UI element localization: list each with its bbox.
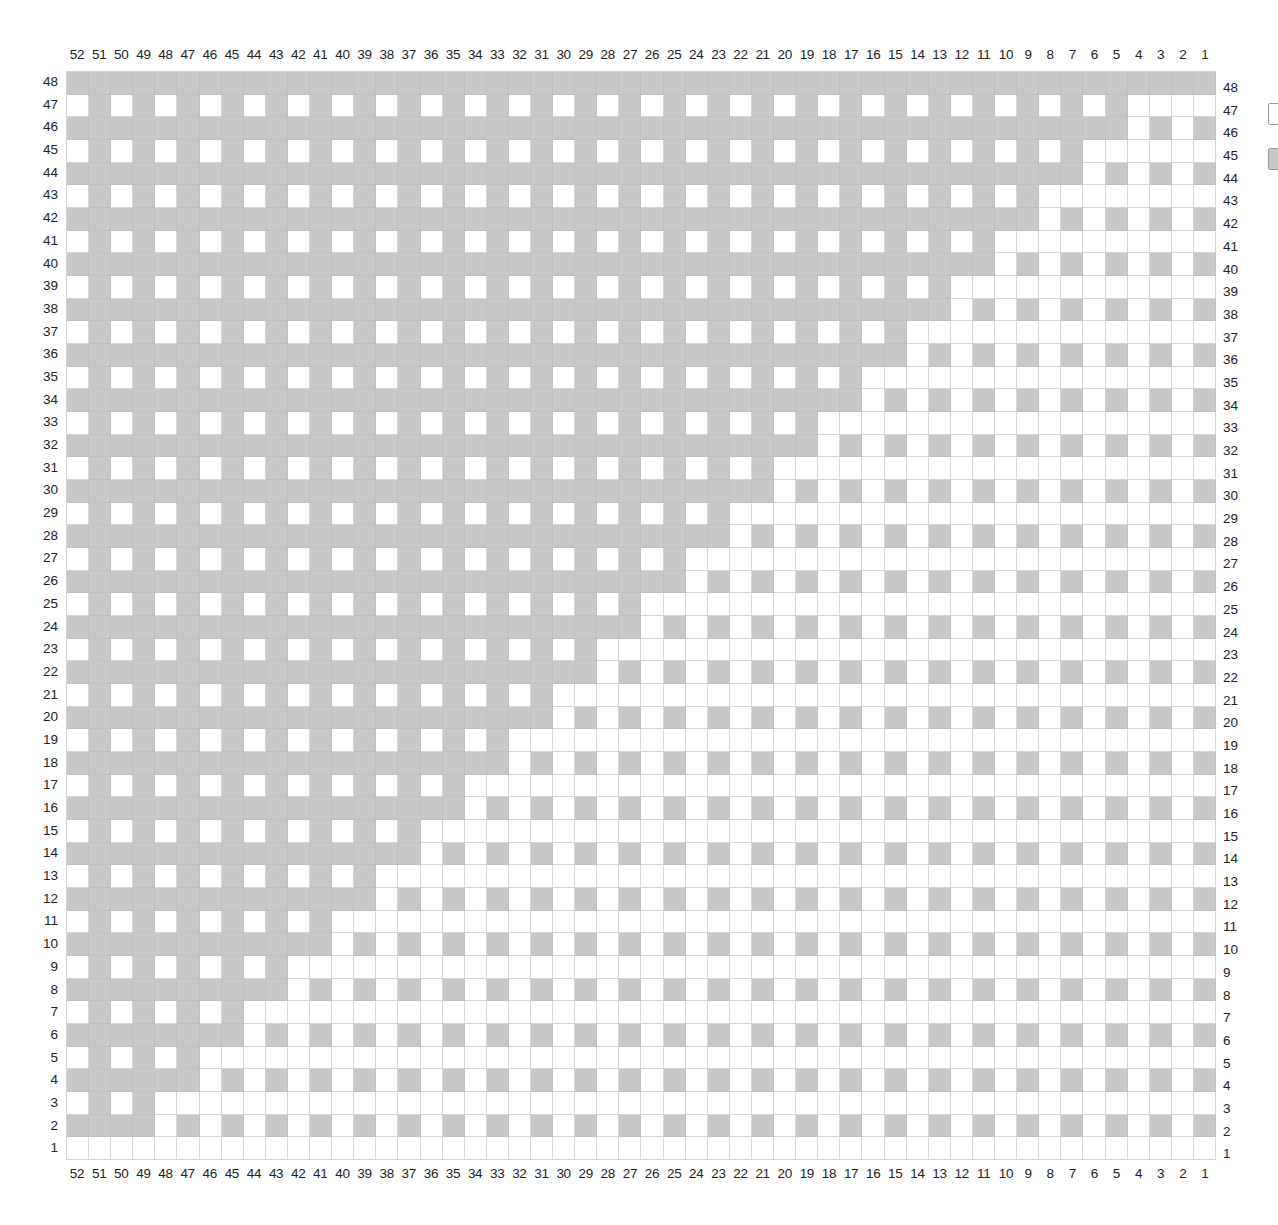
column-label: 19 [796,1165,818,1183]
stitch-cell [509,1069,531,1092]
stitch-cell [907,276,929,299]
stitch-cell [244,321,266,344]
column-label: 43 [265,1165,287,1183]
stitch-cell [973,480,995,503]
stitch-cell [553,979,575,1002]
stitch-cell [465,185,487,208]
stitch-cell [1106,503,1128,526]
stitch-cell [907,979,929,1002]
stitch-cell [1128,389,1150,412]
stitch-cell [752,911,774,934]
stitch-cell [155,1024,177,1047]
stitch-cell [244,707,266,730]
stitch-cell [487,1024,509,1047]
stitch-cell [752,276,774,299]
stitch-cell [1194,208,1216,231]
stitch-cell [89,865,111,888]
stitch-cell [774,684,796,707]
stitch-cell [354,1069,376,1092]
stitch-cell [575,253,597,276]
stitch-cell [200,457,222,480]
stitch-cell [443,1137,465,1160]
stitch-cell [111,117,133,140]
stitch-cell [686,797,708,820]
stitch-cell [398,571,420,594]
stitch-cell [310,865,332,888]
stitch-cell [1061,412,1083,435]
stitch-cell [730,253,752,276]
stitch-cell [421,865,443,888]
stitch-cell [664,140,686,163]
stitch-cell [222,775,244,798]
stitch-cell [443,276,465,299]
stitch-cell [951,752,973,775]
stitch-cell [310,367,332,390]
stitch-cell [575,412,597,435]
stitch-cell [1172,253,1194,276]
stitch-cell [354,367,376,390]
stitch-cell [619,707,641,730]
stitch-cell [1172,729,1194,752]
stitch-cell [177,185,199,208]
stitch-cell [840,412,862,435]
stitch-cell [1083,775,1105,798]
stitch-cell [1083,457,1105,480]
stitch-cell [995,820,1017,843]
stitch-cell [553,367,575,390]
stitch-cell [619,797,641,820]
stitch-cell [465,457,487,480]
stitch-cell [1083,571,1105,594]
row-label: 33 [28,411,62,434]
stitch-cell [310,548,332,571]
column-label: 47 [177,1165,199,1183]
stitch-cell [995,593,1017,616]
stitch-cell [398,865,420,888]
stitch-cell [840,797,862,820]
stitch-cell [730,911,752,934]
stitch-cell [862,503,884,526]
stitch-cell [929,979,951,1002]
stitch-cell [421,163,443,186]
stitch-cell [111,1024,133,1047]
stitch-cell [1128,661,1150,684]
stitch-cell [664,208,686,231]
stitch-cell [465,140,487,163]
stitch-cell [619,956,641,979]
stitch-cell [553,253,575,276]
stitch-cell [619,661,641,684]
stitch-cell [1083,911,1105,934]
row-label: 23 [1220,644,1250,667]
stitch-cell [111,140,133,163]
stitch-cell [222,389,244,412]
stitch-cell [641,775,663,798]
stitch-cell [752,979,774,1002]
stitch-cell [885,185,907,208]
stitch-cell [310,185,332,208]
stitch-cell [332,140,354,163]
stitch-cell [686,707,708,730]
stitch-cell [177,888,199,911]
stitch-cell [89,344,111,367]
stitch-cell [421,1001,443,1024]
stitch-cell [1083,185,1105,208]
stitch-cell [1106,729,1128,752]
stitch-cell [818,389,840,412]
stitch-cell [1128,1024,1150,1047]
stitch-cell [155,1137,177,1160]
stitch-cell [1150,707,1172,730]
stitch-cell [553,412,575,435]
stitch-cell [1061,593,1083,616]
stitch-cell [664,253,686,276]
stitch-cell [1061,435,1083,458]
stitch-cell [885,140,907,163]
stitch-cell [332,956,354,979]
stitch-cell [619,843,641,866]
stitch-cell [664,820,686,843]
stitch-cell [1194,684,1216,707]
stitch-cell [222,661,244,684]
stitch-cell [641,525,663,548]
row-label: 40 [28,253,62,276]
stitch-cell [376,1137,398,1160]
stitch-cell [531,797,553,820]
stitch-cell [67,797,89,820]
